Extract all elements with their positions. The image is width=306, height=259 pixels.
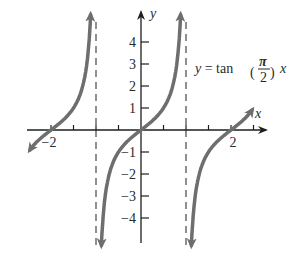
y-tick-label: −4 — [121, 211, 136, 226]
y-tick-label: 1 — [129, 101, 136, 116]
x-tick-label: 2 — [230, 135, 237, 150]
x-tick-labels: −22 — [42, 135, 237, 150]
tangent-graph: 4321−1−2−3−4 −22 y x y = tan ( π 2 ) x — [0, 0, 306, 259]
equation-label: y = tan ( π 2 ) x — [193, 54, 287, 85]
y-axis-label: y — [148, 6, 157, 21]
y-tick-label: 3 — [129, 57, 136, 72]
y-tick-label: 2 — [129, 79, 136, 94]
equation-denominator: 2 — [260, 70, 267, 85]
x-tick-label: −2 — [42, 135, 57, 150]
y-tick-label: −1 — [121, 145, 136, 160]
equation-prefix: y = tan — [193, 61, 233, 76]
x-ticks — [51, 125, 254, 130]
y-tick-label: 4 — [129, 35, 136, 50]
y-tick-label: −2 — [121, 167, 136, 182]
paren-right: ) — [270, 65, 275, 81]
equation-suffix: x — [279, 61, 287, 76]
paren-left: ( — [250, 65, 255, 81]
equation-numerator: π — [259, 54, 267, 69]
y-tick-label: −3 — [121, 189, 136, 204]
x-axis-label: x — [254, 106, 262, 121]
